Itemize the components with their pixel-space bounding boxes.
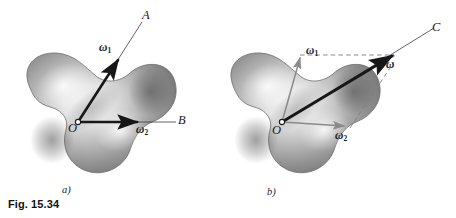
panel-a: A B O ω1 ω2 a) xyxy=(0,0,228,218)
omega-symbol: ω xyxy=(136,123,144,135)
panel-label-a: a) xyxy=(62,185,71,196)
rigid-body-blob xyxy=(27,53,176,173)
rigid-body-blob xyxy=(231,53,380,173)
vector-label-omega-2: ω2 xyxy=(136,124,148,137)
omega-subscript: 2 xyxy=(344,134,348,143)
omega-symbol: ω xyxy=(386,58,394,70)
origin-label-o: O xyxy=(68,122,77,135)
figure-caption: Fig. 15.34 xyxy=(8,198,59,210)
vector-label-omega-resultant: ω xyxy=(386,59,395,72)
figure-15-34: A B O ω1 ω2 a) xyxy=(0,0,456,218)
origin-label-o: O xyxy=(272,124,281,137)
vector-label-omega-1: ω1 xyxy=(306,45,318,58)
omega-subscript: 1 xyxy=(315,49,319,58)
panel-b: C O ω1 ω2 ω b) xyxy=(228,0,456,218)
omega-subscript: 2 xyxy=(145,128,149,137)
panel-a-drawing xyxy=(0,0,228,218)
axis-label-b: B xyxy=(178,114,186,127)
axis-label-a: A xyxy=(142,9,150,22)
omega-symbol: ω xyxy=(306,44,314,56)
panel-label-b: b) xyxy=(267,187,276,198)
vector-label-omega-2: ω2 xyxy=(335,130,347,143)
omega-subscript: 1 xyxy=(108,46,112,55)
omega-symbol: ω xyxy=(335,129,343,141)
axis-label-c: C xyxy=(432,21,440,34)
vector-label-omega-1: ω1 xyxy=(99,42,111,55)
omega-symbol: ω xyxy=(99,41,107,53)
panel-b-drawing xyxy=(228,0,456,218)
